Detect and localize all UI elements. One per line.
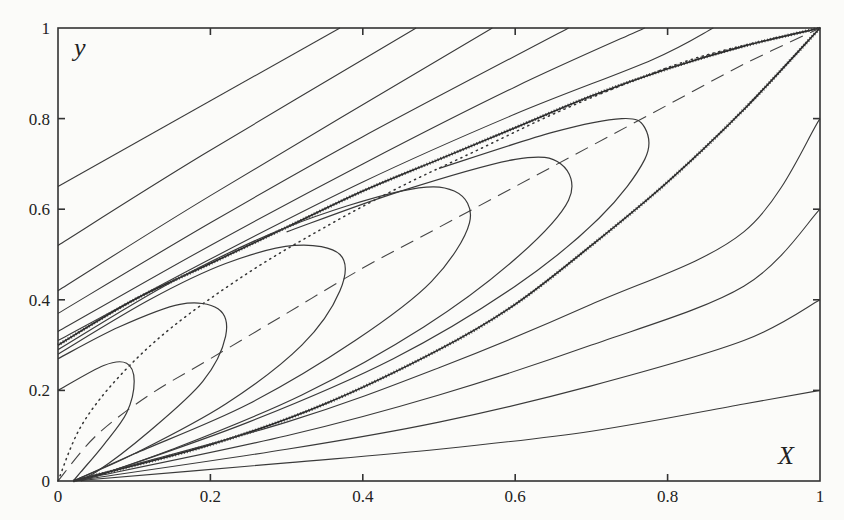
phase-portrait-chart: 00.20.40.60.8100.20.40.60.81 y X (0, 0, 844, 520)
loop-1 (58, 362, 134, 481)
upper-left-line-6 (58, 28, 713, 341)
x-tick-label: 0.8 (657, 487, 678, 506)
x-tick-label: 0.4 (352, 487, 374, 506)
upper-left-line-1 (58, 28, 340, 187)
x-tick-label: 0.2 (200, 487, 221, 506)
upper-left-line-4 (58, 28, 569, 313)
upper-left-line-5 (58, 28, 645, 332)
x-tick-label: 0.6 (505, 487, 526, 506)
y-tick-label: 0 (42, 472, 51, 491)
x-axis-label: X (777, 441, 795, 470)
y-tick-label: 1 (42, 19, 51, 38)
y-axis-label: y (71, 33, 86, 62)
loop-5 (81, 157, 572, 481)
trajectory-curves (58, 28, 820, 481)
lower-right-line-3 (73, 300, 820, 481)
lower-right-line-1 (73, 119, 820, 481)
y-tick-label: 0.6 (29, 200, 50, 219)
y-tick-label: 0.2 (29, 381, 50, 400)
loop-6 (96, 118, 649, 476)
loop-3 (58, 245, 345, 481)
lower-right-line-4 (73, 390, 820, 481)
x-tick-label: 0 (54, 487, 63, 506)
x-tick-label: 1 (816, 487, 825, 506)
y-tick-label: 0.4 (29, 291, 51, 310)
upper-left-line-3 (58, 28, 492, 291)
y-tick-label: 0.8 (29, 110, 50, 129)
